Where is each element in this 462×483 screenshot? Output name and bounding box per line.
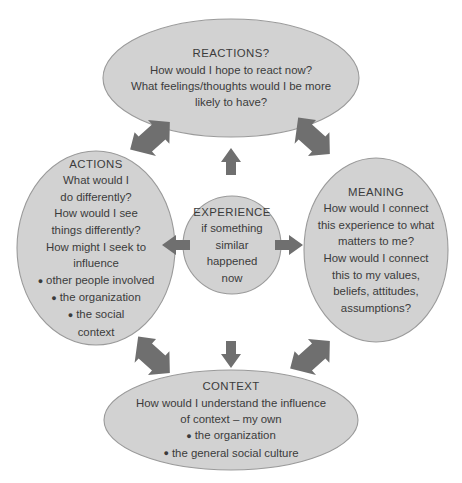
- node-shape-reactions[interactable]: [103, 19, 359, 137]
- node-shape-experience[interactable]: [183, 196, 281, 294]
- arrow-experience-to-context[interactable]: [221, 341, 241, 368]
- node-shape-actions[interactable]: [17, 151, 175, 345]
- diagram-graphics: [0, 0, 462, 483]
- node-shape-meaning[interactable]: [304, 158, 448, 342]
- diagram-canvas: REACTIONS? How would I hope to react now…: [0, 0, 462, 483]
- arrow-experience-to-reactions[interactable]: [221, 148, 241, 175]
- node-shape-context[interactable]: [104, 370, 358, 470]
